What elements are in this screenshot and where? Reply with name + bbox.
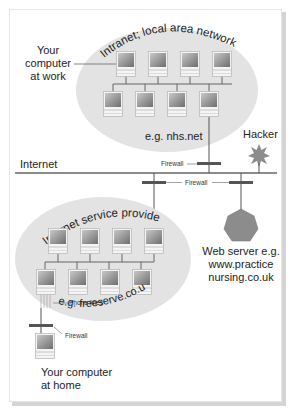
isp-computer [113, 229, 132, 254]
home-computer [36, 334, 55, 359]
isp-computer [49, 229, 68, 254]
web-server-line1: Web server e.g. [202, 245, 279, 257]
intranet-computer [168, 92, 187, 117]
intranet-computer [149, 52, 168, 77]
intranet-computer [136, 92, 155, 117]
web-server-line3: nursing.co.uk [208, 271, 274, 283]
firewall-label-intranet: Firewall [161, 160, 184, 167]
work-label-line1: Your [37, 44, 60, 56]
web-server-icon [224, 209, 258, 241]
web-server-line2: www.practice [208, 258, 274, 270]
server-firewall [229, 181, 253, 184]
isp-firewall [142, 181, 166, 184]
isp-computer [69, 270, 88, 295]
intranet-firewall [197, 162, 221, 165]
work-label-line3: at work [30, 70, 66, 82]
isp-gateway-computer [145, 229, 164, 254]
isp-computer [81, 229, 100, 254]
network-diagram: Intranet; local area network Your comput… [0, 0, 294, 411]
internet-label: Internet [20, 158, 57, 170]
work-label-line2: computer [25, 57, 71, 69]
intranet-gateway-computer [200, 92, 219, 117]
intranet-example: e.g. nhs.net [145, 130, 203, 142]
isp-modem-computer [37, 270, 56, 295]
intranet-computer [104, 92, 123, 117]
home-firewall [29, 324, 53, 327]
home-label-line2: at home [41, 379, 81, 391]
intranet-computer [213, 52, 232, 77]
work-computer [117, 52, 136, 77]
firewall-label-home: Firewall [65, 332, 88, 339]
firewall-label-middle: Firewall [185, 179, 208, 186]
isp-computer [101, 270, 120, 295]
intranet-computer [181, 52, 200, 77]
hacker-label: Hacker [243, 128, 278, 140]
home-label-line1: Your computer [41, 366, 112, 378]
firewall-leader [54, 327, 62, 334]
